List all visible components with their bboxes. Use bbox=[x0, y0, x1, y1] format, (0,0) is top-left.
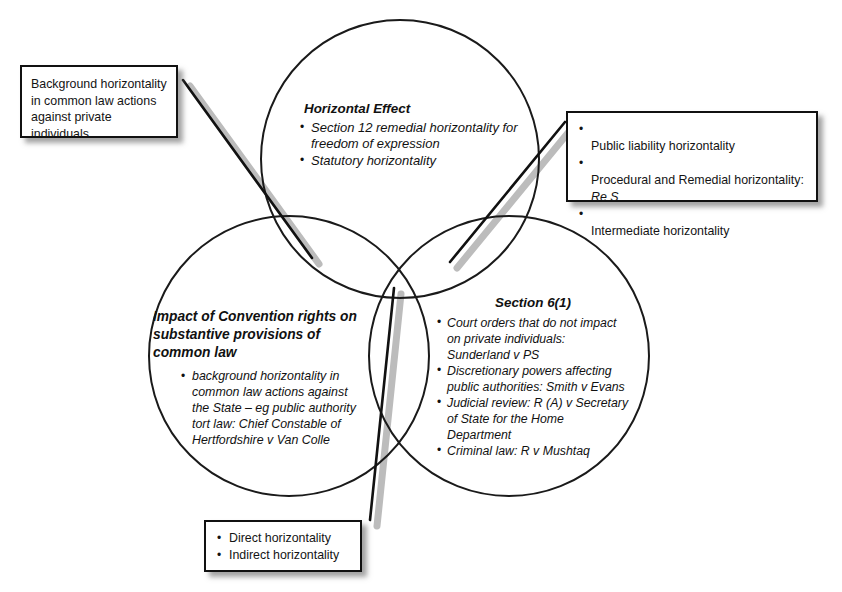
venn-diagram-canvas: Horizontal Effect Section 12 remedial ho… bbox=[0, 0, 842, 592]
heading-horizontal-effect: Horizontal Effect bbox=[304, 100, 518, 118]
circle-text-section-6-1: Section 6(1) Court orders that do not im… bbox=[437, 294, 629, 459]
connector-background-horizontality bbox=[183, 80, 312, 258]
bullet-item: Discretionary powers affecting public au… bbox=[437, 363, 629, 395]
callout-direct-indirect: Direct horizontality Indirect horizontal… bbox=[204, 520, 362, 572]
bullet-citation: Re S bbox=[591, 190, 619, 204]
heading-impact-of-convention-rights: Impact of Convention rights on substanti… bbox=[153, 308, 358, 362]
circle-text-impact-of-convention-rights: Impact of Convention rights on substanti… bbox=[153, 308, 358, 448]
callout-bullet-list: Public liability horizontality Procedura… bbox=[578, 121, 808, 240]
bullet-item: Direct horizontality bbox=[216, 530, 352, 547]
bullet-list-impact-of-convention-rights: background horizontality in common law a… bbox=[181, 368, 358, 448]
heading-section-6-1: Section 6(1) bbox=[437, 294, 629, 312]
bullet-item: Public liability horizontality bbox=[578, 121, 808, 155]
callout-bullet-list: Direct horizontality Indirect horizontal… bbox=[216, 530, 352, 564]
bullet-text: Intermediate horizontality bbox=[591, 224, 729, 238]
callout-background-horizontality: Background horizontality in common law a… bbox=[20, 65, 178, 138]
callout-public-liability: Public liability horizontality Procedura… bbox=[566, 111, 818, 202]
bullet-item: Intermediate horizontality bbox=[578, 206, 808, 240]
bullet-item: Judicial review: R (A) v Secretary of St… bbox=[437, 395, 629, 443]
bullet-list-section-6-1: Court orders that do not impact on priva… bbox=[437, 315, 629, 459]
bullet-item: Section 12 remedial horizontality for fr… bbox=[300, 120, 518, 153]
bullet-text: Procedural and Remedial horizontality: bbox=[591, 173, 804, 187]
bullet-item: Indirect horizontality bbox=[216, 547, 352, 564]
bullet-item: background horizontality in common law a… bbox=[181, 368, 358, 448]
bullet-item: Statutory horizontality bbox=[300, 153, 518, 170]
bullet-list-horizontal-effect: Section 12 remedial horizontality for fr… bbox=[300, 120, 518, 170]
bullet-text: Public liability horizontality bbox=[591, 139, 735, 153]
bullet-item: Court orders that do not impact on priva… bbox=[437, 315, 629, 363]
bullet-item: Procedural and Remedial horizontality: R… bbox=[578, 155, 808, 206]
circle-text-horizontal-effect: Horizontal Effect Section 12 remedial ho… bbox=[300, 100, 518, 169]
bullet-item: Criminal law: R v Mushtaq bbox=[437, 443, 629, 459]
callout-text: Background horizontality in common law a… bbox=[31, 76, 168, 142]
